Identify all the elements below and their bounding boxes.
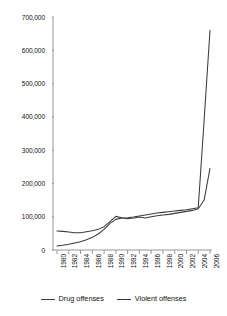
plot-area [52, 14, 212, 250]
legend-item[interactable]: Drug offenses [41, 295, 104, 303]
x-axis-tick-label: 1986 [95, 254, 102, 268]
x-axis-tick-label: 1992 [130, 254, 137, 268]
x-axis-tick-label: 2002 [189, 254, 196, 268]
x-axis-tick-label: 2000 [177, 254, 184, 268]
y-axis-tick-label: 500,000 [22, 80, 45, 87]
y-axis-tick-label: 0 [41, 247, 45, 254]
x-axis-labels: 1980198219841986198819901992199419961998… [52, 252, 214, 290]
x-axis-tick-label: 2006 [213, 254, 220, 268]
x-axis-tick-label: 1984 [83, 254, 90, 268]
legend-line-swatch-icon [41, 299, 55, 300]
y-axis-tick-label: 100,000 [22, 213, 45, 220]
x-axis-tick-label: 1988 [107, 254, 114, 268]
y-axis-tick-label: 700,000 [22, 14, 45, 21]
y-axis-tick-label: 300,000 [22, 147, 45, 154]
x-axis-tick-label: 1982 [71, 254, 78, 268]
x-axis-tick-label: 1980 [60, 254, 67, 268]
y-axis-tick-label: 600,000 [22, 47, 45, 54]
y-axis-labels: 0100,000200,000300,000400,000500,000600,… [0, 0, 45, 316]
legend-line-swatch-icon [117, 299, 131, 300]
x-axis-tick-label: 1990 [118, 254, 125, 268]
series-line-drug-offenses [57, 30, 210, 246]
legend-item[interactable]: Violent offenses [117, 295, 187, 303]
legend-label: Drug offenses [59, 295, 104, 303]
line-chart: 0100,000200,000300,000400,000500,000600,… [0, 0, 227, 316]
legend-label: Violent offenses [135, 295, 187, 303]
y-axis-tick-label: 400,000 [22, 113, 45, 120]
y-axis-tick-label: 200,000 [22, 180, 45, 187]
x-axis-tick-label: 1996 [154, 254, 161, 268]
x-axis-tick-label: 1994 [142, 254, 149, 268]
series-line-violent-offenses [57, 168, 210, 232]
x-axis-tick-label: 2004 [201, 254, 208, 268]
chart-legend: Drug offensesViolent offenses [0, 295, 227, 303]
x-axis-tick-label: 1998 [166, 254, 173, 268]
chart-canvas [52, 14, 212, 256]
